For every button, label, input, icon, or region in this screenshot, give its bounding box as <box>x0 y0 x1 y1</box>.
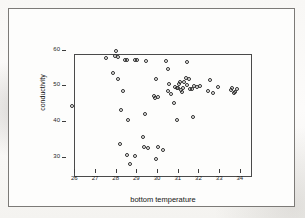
data-point-marker <box>198 84 202 88</box>
data-point-marker <box>187 77 191 81</box>
x-axis-tick-label: 29 <box>128 175 144 181</box>
y-axis-tick <box>62 50 66 51</box>
data-point-marker <box>119 108 123 112</box>
x-axis-tick <box>157 169 158 173</box>
y-axis-tick <box>62 157 66 158</box>
plot-axes-frame <box>74 54 252 177</box>
x-axis-tick <box>116 169 117 173</box>
x-axis-tick <box>198 169 199 173</box>
data-point-marker <box>175 118 179 122</box>
x-axis-tick-label: 34 <box>232 175 248 181</box>
data-point-marker <box>208 78 212 82</box>
data-point-marker <box>191 115 195 119</box>
y-axis-tick-label: 40 <box>44 117 60 123</box>
x-axis-tick-label: 33 <box>211 175 227 181</box>
x-axis-tick <box>74 169 75 173</box>
scatter-plot-figure: 26272829303132333430405060 bottom temper… <box>0 0 305 218</box>
y-axis-tick <box>62 121 66 122</box>
x-axis-tick <box>95 169 96 173</box>
data-point-marker <box>146 146 150 150</box>
y-axis-tick <box>62 85 66 86</box>
x-axis-tick <box>219 169 220 173</box>
data-point-marker <box>180 90 184 94</box>
x-axis-tick-label: 26 <box>66 175 82 181</box>
data-point-marker <box>114 49 118 53</box>
data-point-marker <box>169 92 173 96</box>
data-point-marker <box>185 83 189 87</box>
data-point-marker <box>211 91 215 95</box>
data-point-marker <box>144 59 148 63</box>
data-point-marker <box>143 112 147 116</box>
y-axis-label: conductivity <box>39 58 46 128</box>
data-point-marker <box>116 77 120 81</box>
x-axis-label: bottom temperature <box>74 195 252 204</box>
x-axis-tick-label: 28 <box>108 175 124 181</box>
data-point-marker <box>154 77 158 81</box>
data-point-marker <box>141 135 145 139</box>
y-axis-tick-label: 30 <box>44 153 60 159</box>
figure-outer-border: 26272829303132333430405060 bottom temper… <box>8 8 295 207</box>
data-point-marker <box>128 162 132 166</box>
x-axis-tick <box>240 169 241 173</box>
x-axis-tick-label: 31 <box>170 175 186 181</box>
x-axis-tick <box>136 169 137 173</box>
data-point-marker <box>235 87 239 91</box>
data-point-marker <box>116 55 120 59</box>
x-axis-tick-label: 32 <box>190 175 206 181</box>
x-axis-tick-label: 27 <box>87 175 103 181</box>
y-axis-tick-label: 50 <box>44 81 60 87</box>
x-axis-tick-label: 30 <box>149 175 165 181</box>
y-axis-tick-label: 60 <box>44 46 60 52</box>
x-axis-tick <box>178 169 179 173</box>
data-point-marker <box>172 101 176 105</box>
data-point-marker <box>125 58 129 62</box>
